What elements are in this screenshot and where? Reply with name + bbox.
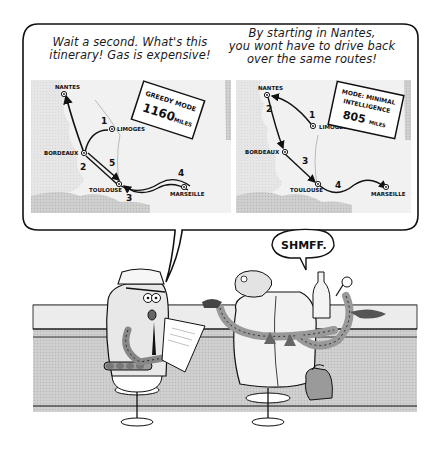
step-2: 2 [80,162,86,172]
city-label-nantes: NANTES [55,84,80,90]
map-minimal-intelligence-mode: NANTES LIMOGES BORDEAUX TOULOUSE MARSEIL… [236,80,411,213]
city-label-nantes-right: NANTES [258,85,283,91]
step-3: 3 [126,193,132,203]
step-4: 4 [178,168,184,178]
left-caption: Wait a second. What's this itinerary! Ga… [40,36,220,62]
city-label-marseille-right: MARSEILLE [371,191,406,197]
sound-effect-bubble: SHMFF. [272,229,334,270]
step-1: 1 [101,116,107,126]
right-caption-line-3: over the same routes! [224,53,400,66]
right-caption: By starting in Nantes, you wont have to … [224,27,400,66]
city-label-toulouse: TOULOUSE [89,187,122,193]
city-label-bordeaux: BORDEAUX [44,150,79,156]
city-label-limoges: LIMOGES [117,126,145,132]
left-caption-line-2: itinerary! Gas is expensive! [40,49,220,62]
sound-effect-text: SHMFF. [281,239,327,252]
bottle [313,272,330,318]
step-5: 5 [109,158,115,168]
city-label-toulouse-right: TOULOUSE [290,187,323,193]
comic-scene: NANTES LIMOGES BORDEAUX TOULOUSE MARSEIL… [0,0,440,450]
map-greedy-mode: NANTES LIMOGES BORDEAUX TOULOUSE MARSEIL… [31,80,231,213]
step-1-right: 1 [309,110,315,120]
step-2-right: 2 [266,104,272,114]
city-label-marseille: MARSEILLE [170,191,205,197]
city-label-bordeaux-right: BORDEAUX [245,149,280,155]
step-4-right: 4 [335,180,341,190]
step-3-right: 3 [302,156,308,166]
